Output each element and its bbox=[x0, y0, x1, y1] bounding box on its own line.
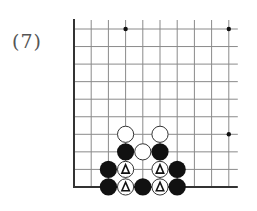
white-stone bbox=[118, 126, 134, 142]
star-point bbox=[227, 132, 231, 136]
black-stone-disc bbox=[117, 143, 134, 160]
black-stone-disc bbox=[134, 178, 151, 195]
black-stone bbox=[169, 178, 186, 195]
black-stone bbox=[134, 178, 151, 195]
white-stone bbox=[135, 144, 151, 160]
white-stone bbox=[152, 161, 168, 177]
white-stone bbox=[152, 126, 168, 142]
white-stone bbox=[118, 179, 134, 195]
star-point bbox=[123, 27, 127, 31]
black-stone-disc bbox=[151, 143, 168, 160]
black-stone bbox=[100, 178, 117, 195]
star-point bbox=[227, 27, 231, 31]
black-stone bbox=[151, 143, 168, 160]
black-stone-disc bbox=[169, 178, 186, 195]
black-stone bbox=[100, 161, 117, 178]
black-stone-disc bbox=[169, 161, 186, 178]
black-stone bbox=[117, 143, 134, 160]
white-stone-disc bbox=[152, 126, 168, 142]
white-stone-disc bbox=[135, 144, 151, 160]
black-stone-disc bbox=[100, 178, 117, 195]
white-stone bbox=[152, 179, 168, 195]
black-stone bbox=[169, 161, 186, 178]
white-stone bbox=[118, 161, 134, 177]
black-stone-disc bbox=[100, 161, 117, 178]
white-stone-disc bbox=[118, 126, 134, 142]
go-board-diagram bbox=[0, 0, 257, 211]
